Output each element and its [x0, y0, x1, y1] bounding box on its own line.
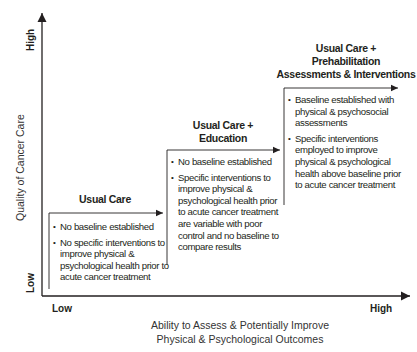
step-3-title: Usual Care + Prehabilitation Assessments…	[276, 42, 416, 81]
step-1-title-line: Usual Care	[55, 193, 155, 206]
step-3-title-line-1: Usual Care +	[276, 42, 416, 55]
step-2-title: Usual Care + Education	[168, 119, 278, 145]
step-1-title: Usual Care	[55, 193, 155, 206]
step-3-bullet-2: Specific interventions employed to impro…	[288, 133, 406, 191]
x-axis-low-label: Low	[52, 303, 72, 314]
step-2-bullet-1: No baseline established	[171, 156, 283, 168]
step-3-title-line-2: Prehabilitation	[276, 55, 416, 68]
step-1-bullet-1: No baseline established	[53, 221, 171, 233]
step-2-title-line-1: Usual Care +	[168, 119, 278, 132]
step-2-bullets: No baseline established Specific interve…	[171, 156, 283, 257]
step-3-title-line-3: Assessments & Interventions	[276, 68, 416, 81]
x-axis-title: Ability to Assess & Potentially Improve …	[100, 318, 380, 346]
x-axis-title-line-2: Physical & Psychological Outcomes	[100, 332, 380, 346]
y-axis-high-label: High	[25, 29, 36, 51]
y-axis-title: Quality of Cancer Care	[14, 114, 26, 221]
step-1-bullet-2: No specific interventions to improve phy…	[53, 237, 171, 283]
step-3-bullets: Baseline established with physical & psy…	[288, 94, 406, 195]
x-axis-high-label: High	[370, 303, 392, 314]
step-1-bullets: No baseline established No specific inte…	[53, 221, 171, 287]
y-axis-low-label: Low	[25, 273, 36, 293]
step-3-bullet-1: Baseline established with physical & psy…	[288, 94, 406, 129]
step-2-bullet-2: Specific interventions to improve physic…	[171, 172, 283, 253]
x-axis-title-line-1: Ability to Assess & Potentially Improve	[100, 318, 380, 332]
step-2-title-line-2: Education	[168, 132, 278, 145]
